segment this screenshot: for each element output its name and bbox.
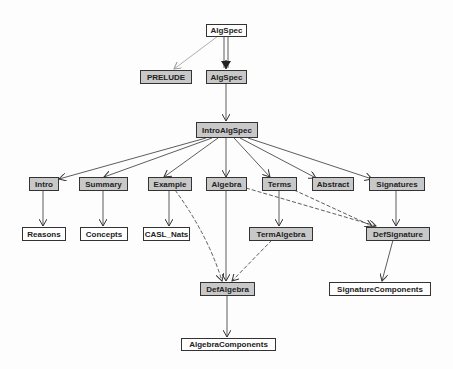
node-summary: Summary — [79, 177, 128, 191]
edge-summary — [104, 138, 212, 177]
node-defalgebra: DefAlgebra — [200, 282, 255, 296]
node-defsignature: DefSignature — [366, 227, 430, 241]
node-signaturecomponents: SignatureComponents — [329, 282, 431, 296]
node-abstract: Abstract — [312, 177, 354, 191]
node-concepts: Concepts — [80, 227, 128, 241]
edge-abstract — [240, 138, 316, 178]
node-algebracomponents: AlgebraComponents — [181, 338, 276, 351]
node-example: Example — [148, 177, 192, 191]
node-signatures: Signatures — [369, 177, 425, 191]
edge-termalgebra-defalgebra-dashed — [232, 240, 272, 281]
edge-algspec-prelude — [174, 36, 218, 69]
node-introalgspec: IntroAlgSpec — [196, 122, 258, 138]
node-algspec-top: AlgSpec — [206, 24, 247, 37]
edge-intro — [59, 138, 206, 179]
node-algebra: Algebra — [206, 177, 247, 191]
node-termalgebra: TermAlgebra — [249, 227, 313, 241]
node-reasons: Reasons — [22, 227, 66, 241]
edge-defsignature-signaturecomponents — [382, 240, 393, 281]
node-casl-nats: CASL_Nats — [143, 227, 190, 241]
edge-terms-defsignature-dashed — [294, 190, 372, 226]
node-algspec: AlgSpec — [206, 70, 247, 84]
edge-algebra-defsignature-dashed — [246, 188, 376, 226]
dependency-diagram: AlgSpec PRELUDE AlgSpec IntroAlgSpec Int… — [0, 0, 453, 369]
node-terms: Terms — [262, 177, 297, 191]
node-intro: Intro — [29, 177, 59, 191]
edge-example — [164, 138, 218, 177]
node-prelude: PRELUDE — [140, 70, 192, 84]
